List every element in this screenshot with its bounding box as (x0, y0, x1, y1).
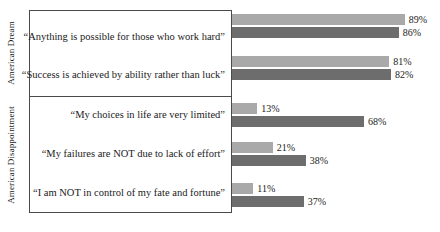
bar (232, 196, 304, 207)
label-group-american-disappointment: “My choices in life are very limited” “M… (30, 97, 231, 213)
bar-value-label: 68% (368, 116, 386, 127)
bar (232, 116, 364, 127)
category-label: “Success is achieved by ability rather t… (22, 69, 225, 81)
category-label-table: “Anything is possible for those who work… (29, 10, 232, 213)
bar (232, 183, 253, 194)
category-label: “Anything is possible for those who work… (23, 31, 225, 43)
bar (232, 155, 306, 166)
group-axis-label-american-disappointment: American Disappointment (0, 96, 22, 213)
plot-area: 89%86%81%82%13%68%21%38%11%37% (232, 0, 440, 232)
bar-value-label: 82% (395, 69, 413, 80)
bar-value-label: 86% (403, 27, 421, 38)
bar (232, 14, 405, 25)
bar-value-label: 21% (277, 142, 295, 153)
bar-value-label: 81% (393, 56, 411, 67)
group-axis-label-text: American Disappointment (6, 106, 16, 204)
bar (232, 56, 389, 67)
group-axis-label-american-dream: American Dream (0, 10, 22, 96)
bar-value-label: 89% (409, 14, 427, 25)
bar-chart: American Dream American Disappointment “… (0, 0, 440, 232)
bar (232, 142, 273, 153)
bar-value-label: 37% (308, 196, 326, 207)
bar (232, 103, 257, 114)
bar-value-label: 11% (257, 183, 275, 194)
group-axis-label-text: American Dream (6, 21, 16, 85)
bar-value-label: 38% (310, 155, 328, 166)
category-label: “I am NOT in control of my fate and fort… (33, 187, 225, 199)
bar-value-label: 13% (261, 103, 279, 114)
bar (232, 27, 399, 38)
category-label: “My choices in life are very limited” (70, 109, 225, 121)
bar (232, 69, 391, 80)
label-group-american-dream: “Anything is possible for those who work… (30, 11, 231, 97)
category-label: “My failures are NOT due to lack of effo… (42, 148, 225, 160)
